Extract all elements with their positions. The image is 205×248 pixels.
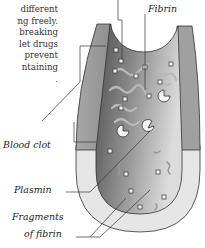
label-blood-clot: Blood clot: [3, 139, 51, 150]
label-of-fibrin: of fibrin: [24, 228, 62, 239]
vessel-lumen: [96, 24, 182, 214]
label-plasmin: Plasmin: [14, 184, 52, 195]
label-fragments: Fragments: [12, 211, 64, 222]
label-fibrin: Fibrin: [148, 3, 177, 14]
